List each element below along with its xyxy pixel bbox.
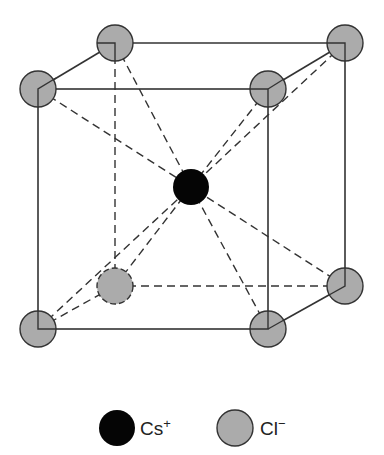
- cl-ion-back-bottom-left: [97, 268, 133, 304]
- legend-cl-swatch: [217, 410, 253, 446]
- cs-ion-center: [173, 169, 209, 205]
- legend: Cs+ Cl−: [99, 410, 286, 446]
- legend-cl-label: Cl−: [260, 416, 286, 439]
- cscl-unit-cell-diagram: Cs+ Cl−: [0, 0, 384, 455]
- legend-cs-swatch: [99, 410, 135, 446]
- legend-cs-label: Cs+: [140, 416, 171, 439]
